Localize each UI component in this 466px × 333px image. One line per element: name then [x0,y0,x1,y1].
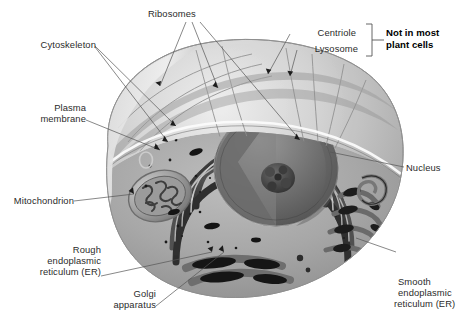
label-smooth-er-line1: Smooth [398,276,431,287]
leader-mitochondrion [74,194,134,201]
label-golgi-line2: apparatus [86,299,156,310]
label-smooth-er-line3: reticulum (ER) [394,298,455,309]
leader-rough-er [101,252,212,276]
label-rough-er-line1: Rough [28,244,101,255]
label-plasma-membrane-line2: membrane [6,113,86,124]
leader-cytoskeleton-1 [95,46,176,126]
leader-arrowheads [129,69,300,252]
leader-nucleus [330,152,404,167]
note-line2: plant cells [386,39,433,51]
leader-plasma-membrane [86,120,160,150]
note-line1: Not in most [386,27,439,39]
label-ribosomes: Ribosomes [148,8,196,19]
label-nucleus: Nucleus [406,162,441,173]
label-lysosome: Lysosome [286,43,358,54]
diagram-canvas: Ribosomes Cytoskeleton Plasma membrane M… [0,0,466,333]
label-rough-er-line2: endoplasmic [28,255,101,266]
label-rough-er-line3: reticulum (ER) [24,266,101,277]
label-centriole: Centriole [286,27,356,38]
label-mitochondrion: Mitochondrion [2,195,74,206]
label-golgi-line1: Golgi [96,288,156,299]
leader-ribosomes-2 [192,22,218,88]
label-plasma-membrane-line1: Plasma [14,102,86,113]
leader-ribosomes-1 [160,22,186,86]
label-smooth-er-line2: endoplasmic [398,287,452,298]
leader-smooth-er [356,238,396,252]
plant-cell-bracket [366,24,384,56]
label-cytoskeleton: Cytoskeleton [14,39,96,50]
leader-golgi [156,252,224,306]
